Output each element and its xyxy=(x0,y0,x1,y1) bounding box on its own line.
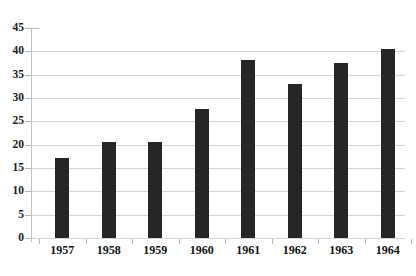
y-axis-label-25: 25 xyxy=(0,115,24,126)
gridline-5 xyxy=(32,215,405,216)
y-axis-label-10: 10 xyxy=(0,185,24,196)
plot-area xyxy=(31,24,405,242)
bar-1963 xyxy=(334,63,348,238)
bar-1960 xyxy=(195,109,209,238)
y-tick-15 xyxy=(25,168,31,169)
x-axis-label-1961: 1961 xyxy=(224,244,272,257)
bar-1964 xyxy=(381,49,395,238)
y-tick-5 xyxy=(25,215,31,216)
x-axis-label-1957: 1957 xyxy=(38,244,86,257)
gridline-35 xyxy=(32,75,405,76)
x-axis-label-1958: 1958 xyxy=(85,244,133,257)
y-axis-label-0: 0 xyxy=(0,232,24,243)
bar-1958 xyxy=(102,142,116,238)
bar-chart: 051015202530354045 195719581959196019611… xyxy=(0,0,416,276)
gridline-25 xyxy=(32,121,405,122)
bar-1959 xyxy=(148,142,162,238)
gridline-20 xyxy=(32,145,405,146)
x-axis-label-1962: 1962 xyxy=(271,244,319,257)
bar-1961 xyxy=(241,60,255,238)
x-axis-label-1963: 1963 xyxy=(317,244,365,257)
y-axis-label-45: 45 xyxy=(0,22,24,33)
gridline-40 xyxy=(32,51,405,52)
y-axis-label-5: 5 xyxy=(0,209,24,220)
x-axis-label-1964: 1964 xyxy=(364,244,412,257)
y-tick-45 xyxy=(25,28,31,29)
y-tick-10 xyxy=(25,191,31,192)
y-tick-0 xyxy=(25,238,31,239)
y-axis-label-35: 35 xyxy=(0,69,24,80)
y-axis-line xyxy=(31,28,32,242)
top-edge-artifact xyxy=(0,0,416,7)
y-tick-30 xyxy=(25,98,31,99)
gridline-10 xyxy=(32,191,405,192)
x-axis-label-1959: 1959 xyxy=(131,244,179,257)
y-tick-35 xyxy=(25,75,31,76)
y-axis-label-40: 40 xyxy=(0,45,24,56)
y-tick-20 xyxy=(25,145,31,146)
bar-1957 xyxy=(55,158,69,238)
gridline-45 xyxy=(32,28,39,29)
gridline-0 xyxy=(32,238,405,239)
y-axis-label-20: 20 xyxy=(0,139,24,150)
gridline-15 xyxy=(32,168,405,169)
x-axis-label-1960: 1960 xyxy=(178,244,226,257)
y-axis-label-15: 15 xyxy=(0,162,24,173)
bar-1962 xyxy=(288,84,302,238)
y-tick-25 xyxy=(25,121,31,122)
gridline-30 xyxy=(32,98,405,99)
y-axis-label-30: 30 xyxy=(0,92,24,103)
y-tick-40 xyxy=(25,51,31,52)
